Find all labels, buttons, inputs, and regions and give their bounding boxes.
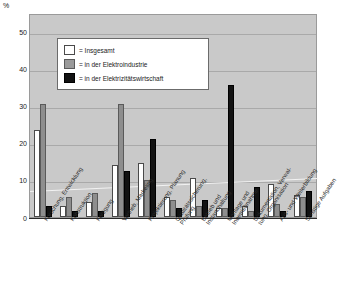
y-tick-40: 40 (3, 66, 27, 73)
y-tick-30: 30 (3, 103, 27, 110)
legend-label-insgesamt: = Insgesamt (79, 47, 115, 54)
legend-item-insgesamt: = Insgesamt (64, 43, 203, 57)
y-axis-tick-labels: 01020304050 (0, 14, 27, 218)
y-tick-10: 10 (3, 177, 27, 184)
bar (40, 104, 46, 217)
legend-item-elektrizitaetswirtschaft: = in der Elektrizitätswirtschaft (64, 71, 203, 85)
bar-group (212, 15, 238, 217)
legend-item-elektroindustrie: = in der Elektroindustrie (64, 57, 203, 71)
legend-label-elektrizitaetswirtschaft: = in der Elektrizitätswirtschaft (79, 75, 163, 82)
y-tick-20: 20 (3, 140, 27, 147)
legend-swatch-icon-elektroindustrie (64, 59, 75, 69)
x-axis-category-labels: Forschung, EntwicklungKonstruktionFertig… (29, 219, 317, 290)
legend-label-elektroindustrie: = in der Elektroindustrie (79, 61, 147, 68)
legend-swatch-icon-elektrizitaetswirtschaft (64, 73, 75, 83)
y-tick-0: 0 (3, 215, 27, 222)
legend-swatch-icon-insgesamt (64, 45, 75, 55)
y-tick-50: 50 (3, 29, 27, 36)
bar-group (30, 15, 56, 217)
chart-legend: = Insgesamt = in der Elektroindustrie = … (57, 38, 209, 90)
y-axis-unit-label: % (3, 2, 9, 9)
